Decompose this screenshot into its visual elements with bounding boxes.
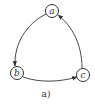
diagram-caption: a)	[42, 89, 51, 99]
edge-a-to-b	[15, 14, 46, 66]
node-c-label: c	[80, 70, 85, 80]
edge-b-to-c	[23, 77, 77, 81]
node-a-label: a	[49, 6, 54, 16]
node-b: b	[11, 67, 24, 80]
node-a: a	[46, 5, 59, 18]
node-c: c	[77, 69, 90, 82]
node-b-label: b	[14, 68, 20, 78]
edge-c-to-a	[58, 15, 82, 68]
graph-diagram: a b c a)	[0, 0, 95, 109]
